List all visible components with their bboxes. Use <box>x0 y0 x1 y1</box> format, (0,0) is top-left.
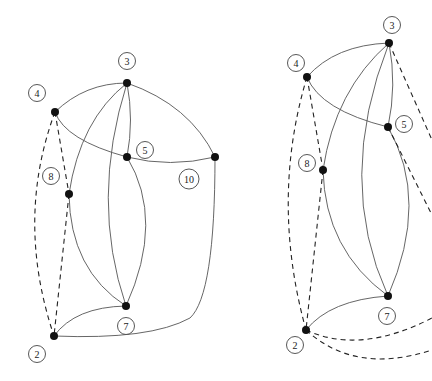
dashed-edge-8-2 <box>306 170 323 330</box>
dashed-edge-2-right-lower <box>306 330 432 359</box>
edge-5-7 <box>388 127 409 296</box>
right-graph-node-8 <box>319 166 327 174</box>
right-graph-label-7: 7 <box>379 308 396 325</box>
left-graph-node-5 <box>123 153 131 161</box>
edge-4-3 <box>307 43 389 77</box>
edge-8-7 <box>69 194 126 306</box>
dashed-edge-4-2 <box>35 112 55 336</box>
left-graph-label-4: 4 <box>29 85 46 102</box>
edge-3-5 <box>388 43 393 127</box>
left-graph-node-7 <box>122 302 130 310</box>
label-text: 2 <box>293 340 298 351</box>
dashed-edge-2-right-upper <box>306 318 432 340</box>
right-graph-label-4: 4 <box>288 55 305 72</box>
label-text: 8 <box>49 171 54 182</box>
left-graph-label-8: 8 <box>43 168 60 185</box>
left-graph-label-3: 3 <box>119 53 136 70</box>
label-text: 7 <box>124 321 129 332</box>
label-text: 10 <box>184 174 194 185</box>
label-text: 3 <box>390 20 395 31</box>
edge-3-7 <box>362 43 389 296</box>
edge-3-7 <box>108 83 127 306</box>
nodes-layer <box>50 39 393 340</box>
label-text: 4 <box>294 58 299 69</box>
right-graph-node-5 <box>384 123 392 131</box>
label-text: 7 <box>385 311 390 322</box>
label-text: 5 <box>402 119 407 130</box>
right-graph <box>288 43 432 359</box>
label-text: 4 <box>35 88 40 99</box>
left-graph-node-8 <box>65 190 73 198</box>
edge-5-10 <box>127 157 215 163</box>
label-text: 5 <box>143 145 148 156</box>
edge-4-5 <box>55 112 127 157</box>
label-text: 8 <box>305 158 310 169</box>
edge-3-8 <box>323 43 389 170</box>
edge-3-5 <box>127 83 131 157</box>
dashed-edge-8-2 <box>54 194 69 336</box>
edge-4-3 <box>55 83 127 112</box>
left-graph-node-2 <box>50 332 58 340</box>
left-graph-label-7: 7 <box>118 318 135 335</box>
label-text: 3 <box>125 56 130 67</box>
right-graph-label-5: 5 <box>396 116 413 133</box>
left-graph-label-5: 5 <box>137 142 154 159</box>
edge-2-7 <box>306 296 388 330</box>
right-graph-label-8: 8 <box>299 155 316 172</box>
edge-2-7 <box>54 306 126 336</box>
right-graph-node-7 <box>384 292 392 300</box>
right-graph-label-2: 2 <box>287 337 304 354</box>
left-graph-label-2: 2 <box>29 346 46 363</box>
edge-3-8 <box>69 83 127 194</box>
dashed-edge-4-2-outer <box>288 77 307 330</box>
left-graph-node-10 <box>211 153 219 161</box>
edge-5-7 <box>126 157 146 306</box>
edge-4-5 <box>307 77 388 127</box>
left-graph-label-10: 10 <box>179 169 199 189</box>
right-graph-node-3 <box>385 39 393 47</box>
right-graph-node-4 <box>303 73 311 81</box>
right-graph-node-2 <box>302 326 310 334</box>
left-graph-node-4 <box>51 108 59 116</box>
label-text: 2 <box>35 349 40 360</box>
labels-layer: 34581072345872 <box>29 17 413 363</box>
right-graph-label-3: 3 <box>384 17 401 34</box>
left-graph <box>35 83 215 337</box>
edge-8-7 <box>323 170 388 296</box>
graph-diagram: 34581072345872 <box>0 0 432 381</box>
left-graph-node-3 <box>123 79 131 87</box>
